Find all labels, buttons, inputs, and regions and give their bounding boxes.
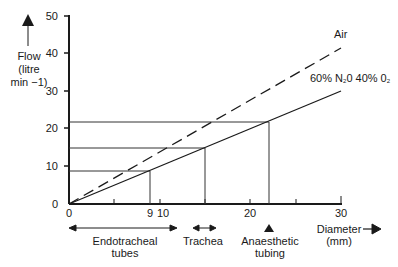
x-arrow <box>363 224 381 234</box>
endotracheal-line1: Endotracheal <box>85 235 165 247</box>
y-axis-title-line2: (litre <box>6 63 52 76</box>
x-tick-10: 10 <box>151 207 175 219</box>
x-axis-title-line2: (mm) <box>314 235 364 247</box>
y-tick-40: 40 <box>38 47 58 59</box>
y-tick-20: 20 <box>38 122 58 134</box>
endotracheal-range-arrow <box>69 225 177 231</box>
x-tick-0: 0 <box>57 207 81 219</box>
x-tick-30: 30 <box>329 207 353 219</box>
y-tick-10: 10 <box>38 160 58 172</box>
x-axis-title-line1: Diameter <box>314 223 364 235</box>
anaesthetic-label: Anaesthetic tubing <box>237 235 303 259</box>
x-axis-title: Diameter (mm) <box>314 223 364 247</box>
series-label-n2o-o2: 60% N20 40% 02 <box>310 72 390 87</box>
y-tick-50: 50 <box>38 10 58 22</box>
x-ticks <box>114 196 341 204</box>
y-tick-30: 30 <box>38 85 58 97</box>
mix-label-sub2: 2 <box>387 78 390 84</box>
mix-label-part2: 0 40% 0 <box>346 72 386 84</box>
anaesthetic-line2: tubing <box>237 247 303 259</box>
trachea-label: Trachea <box>183 235 223 247</box>
anaesthetic-line1: Anaesthetic <box>237 235 303 247</box>
y-tick-0: 0 <box>38 198 58 210</box>
y-arrow-head-icon <box>22 14 34 26</box>
x-tick-20: 20 <box>238 207 262 219</box>
series-label-air: Air <box>334 28 347 40</box>
endotracheal-line2: tubes <box>85 247 165 259</box>
x-arrow-head-icon <box>372 224 381 234</box>
reference-horizontal-lines <box>69 122 269 171</box>
trachea-range-arrow <box>193 225 216 231</box>
anaesthetic-marker-icon <box>264 224 274 232</box>
endotracheal-label: Endotracheal tubes <box>85 235 165 259</box>
mix-label-part1: 60% N <box>310 72 343 84</box>
